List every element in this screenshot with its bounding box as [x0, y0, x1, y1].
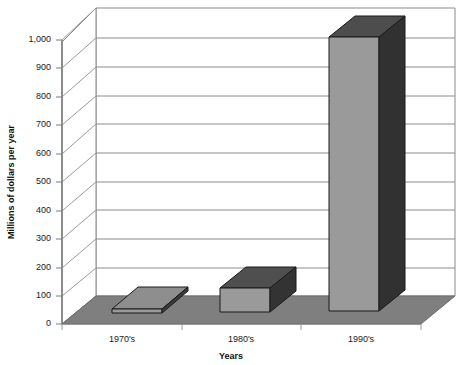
x-axis-title: Years: [219, 351, 243, 361]
y-tick-label: 900: [36, 62, 51, 72]
bar-1990s[interactable]: [329, 16, 405, 311]
y-tick-label: 1,000: [28, 34, 51, 44]
y-axis-title: Millions of dollars per year: [6, 124, 16, 239]
plot-side-wall: [62, 8, 96, 324]
y-tick-label: 100: [36, 290, 51, 300]
y-tick-label: 600: [36, 148, 51, 158]
x-tick-labels: 1970's 1980's 1990's: [109, 334, 375, 344]
y-tick-label: 0: [46, 318, 51, 328]
bar-chart-figure: 0 100 200 300 400 500 600 700 800 900 1,…: [0, 0, 461, 365]
y-tick-label: 200: [36, 262, 51, 272]
x-tick-label-1970s: 1970's: [109, 334, 136, 344]
y-axis: [56, 40, 62, 324]
y-tick-label: 300: [36, 233, 51, 243]
x-axis-title-text: Years: [219, 351, 243, 361]
y-axis-title-text: Millions of dollars per year: [6, 124, 16, 239]
chart-canvas: 0 100 200 300 400 500 600 700 800 900 1,…: [0, 0, 461, 365]
y-tick-label: 500: [36, 176, 51, 186]
y-tick-label: 800: [36, 91, 51, 101]
x-tick-label-1980s: 1980's: [228, 334, 255, 344]
x-axis: [62, 324, 421, 330]
y-tick-label: 700: [36, 119, 51, 129]
x-tick-label-1990s: 1990's: [348, 334, 375, 344]
y-tick-labels: 0 100 200 300 400 500 600 700 800 900 1,…: [28, 34, 51, 328]
y-tick-label: 400: [36, 205, 51, 215]
